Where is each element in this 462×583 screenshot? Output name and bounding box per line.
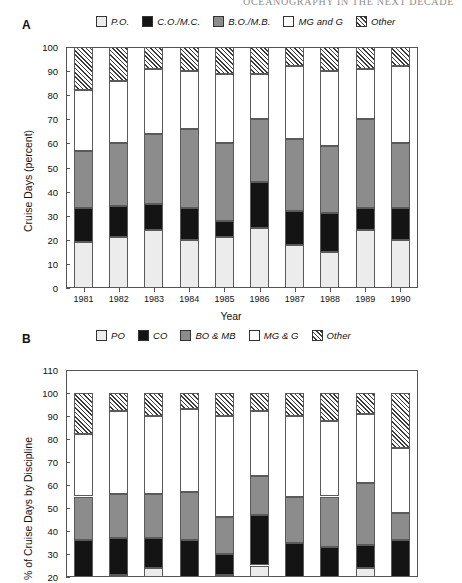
panel-b-seg-1990-mg — [391, 448, 410, 512]
panel-a-seg-1982-po — [109, 237, 128, 288]
panel-b-seg-1988-other — [320, 393, 339, 421]
panel-b-seg-1990-co — [391, 540, 410, 577]
panel-b-seg-1981-co — [74, 540, 93, 577]
panel-a-seg-1988-co — [320, 213, 339, 252]
panel-b-bar-1982 — [109, 370, 128, 577]
panel-b-seg-1983-bo — [144, 494, 163, 538]
panel-b: B POCOBO & MBMG & GOther 203040506070809… — [0, 330, 462, 577]
panel-a-seg-1989-mg — [356, 69, 375, 120]
panel-a-xtick-mark-1988 — [330, 288, 331, 292]
panel-b-bar-1986 — [250, 370, 269, 577]
panel-b-ytick-mark-40 — [66, 531, 70, 532]
panel-b-ytick-mark-50 — [66, 508, 70, 509]
panel-a-seg-1987-bo — [285, 139, 304, 211]
panel-a-seg-1987-co — [285, 211, 304, 245]
panel-b-bar-1983 — [144, 370, 163, 577]
panel-a-bar-1982 — [109, 47, 128, 288]
panel-a-seg-1990-mg — [391, 66, 410, 143]
panel-a-ytick-10: 10 — [0, 258, 58, 269]
panel-a-seg-1986-bo — [250, 119, 269, 182]
panel-a-seg-1986-other — [250, 47, 269, 74]
panel-a-seg-1987-mg — [285, 66, 304, 138]
panel-a-ytick-70: 70 — [0, 114, 58, 125]
panel-b-bar-1981 — [74, 370, 93, 577]
panel-a-ytick-90: 90 — [0, 66, 58, 77]
panel-b-seg-1986-bo — [250, 476, 269, 515]
panel-a-seg-1990-co — [391, 208, 410, 239]
panel-b-ytick-110: 110 — [0, 365, 58, 376]
panel-a-xtick-1988: 1988 — [320, 294, 340, 304]
panel-b-seg-1989-other — [356, 393, 375, 414]
panel-a-seg-1989-other — [356, 47, 375, 69]
panel-b-bar-1984 — [180, 370, 199, 577]
panel-b-ytick-mark-70 — [66, 462, 70, 463]
panel-a-seg-1981-other — [74, 47, 93, 90]
panel-b-bar-1987 — [285, 370, 304, 577]
panel-b-seg-1987-bo — [285, 497, 304, 543]
panel-b-seg-1984-bo — [180, 492, 199, 540]
panel-b-seg-1986-mg — [250, 411, 269, 475]
panel-b-seg-1982-other — [109, 393, 128, 411]
panel-a-plot: 0102030405060708090100Cruise Days (perce… — [0, 14, 462, 324]
panel-a-xtick-mark-1983 — [154, 288, 155, 292]
panel-a-seg-1985-po — [215, 237, 234, 288]
panel-a-bar-1985 — [215, 47, 234, 288]
panel-a-xtick-1986: 1986 — [250, 294, 270, 304]
panel-a-seg-1984-other — [180, 47, 199, 71]
panel-a-seg-1987-other — [285, 47, 304, 66]
panel-b-seg-1988-co — [320, 547, 339, 577]
panel-b-seg-1989-co — [356, 545, 375, 568]
panel-a-ytick-0: 0 — [0, 283, 58, 294]
panel-a-ytick-mark-80 — [66, 95, 70, 96]
panel-a-seg-1983-bo — [144, 134, 163, 204]
panel-a-seg-1989-po — [356, 230, 375, 288]
panel-b-seg-1983-co — [144, 538, 163, 568]
panel-a-seg-1984-mg — [180, 71, 199, 129]
panel-b-seg-1986-po — [250, 566, 269, 578]
panel-a-bar-1988 — [320, 47, 339, 288]
panel-a-xtick-mark-1987 — [295, 288, 296, 292]
panel-a-seg-1989-bo — [356, 119, 375, 208]
panel-a-xtick-1987: 1987 — [285, 294, 305, 304]
panel-a-ytick-mark-60 — [66, 143, 70, 144]
panel-a-ytick-mark-70 — [66, 119, 70, 120]
panel-b-seg-1989-mg — [356, 414, 375, 483]
panel-b-seg-1981-other — [74, 393, 93, 434]
panel-b-seg-1990-other — [391, 393, 410, 448]
panel-a-xtick-mark-1981 — [84, 288, 85, 292]
panel-b-seg-1982-po — [109, 575, 128, 577]
panel-a-ytick-mark-30 — [66, 216, 70, 217]
panel-a-bar-1983 — [144, 47, 163, 288]
panel-b-seg-1983-other — [144, 393, 163, 416]
panel-b-seg-1987-co — [285, 543, 304, 578]
panel-a-seg-1983-po — [144, 230, 163, 288]
panel-b-seg-1989-po — [356, 568, 375, 577]
panel-a-xtick-mark-1989 — [365, 288, 366, 292]
panel-a-xtick-1985: 1985 — [214, 294, 234, 304]
panel-a-ytick-mark-90 — [66, 71, 70, 72]
panel-b-ytick-mark-100 — [66, 393, 70, 394]
panel-a-seg-1988-po — [320, 252, 339, 288]
panel-a-seg-1988-other — [320, 47, 339, 71]
panel-a-seg-1985-bo — [215, 143, 234, 220]
panel-a-seg-1986-po — [250, 228, 269, 288]
panel-a-seg-1988-mg — [320, 71, 339, 146]
panel-a-xtick-mark-1984 — [189, 288, 190, 292]
panel-a-seg-1986-co — [250, 182, 269, 228]
panel-a-ytick-mark-10 — [66, 264, 70, 265]
panel-b-ytick-mark-90 — [66, 416, 70, 417]
panel-b-seg-1985-bo — [215, 517, 234, 554]
panel-a-seg-1984-co — [180, 208, 199, 239]
panel-b-seg-1981-mg — [74, 434, 93, 496]
panel-b-seg-1985-po — [215, 575, 234, 577]
panel-b-seg-1985-co — [215, 554, 234, 575]
running-head: OCEANOGRAPHY IN THE NEXT DECADE — [243, 0, 454, 7]
panel-a-bar-1987 — [285, 47, 304, 288]
panel-b-seg-1984-other — [180, 393, 199, 409]
panel-a-xtick-mark-1985 — [224, 288, 225, 292]
panel-b-bar-1990 — [391, 370, 410, 577]
panel-a-x-axis-title: Year — [0, 310, 462, 322]
panel-a-seg-1987-po — [285, 245, 304, 288]
panel-b-y-axis-title: % of Cruise Days by Discipline — [22, 437, 34, 580]
panel-b-bar-1989 — [356, 370, 375, 577]
